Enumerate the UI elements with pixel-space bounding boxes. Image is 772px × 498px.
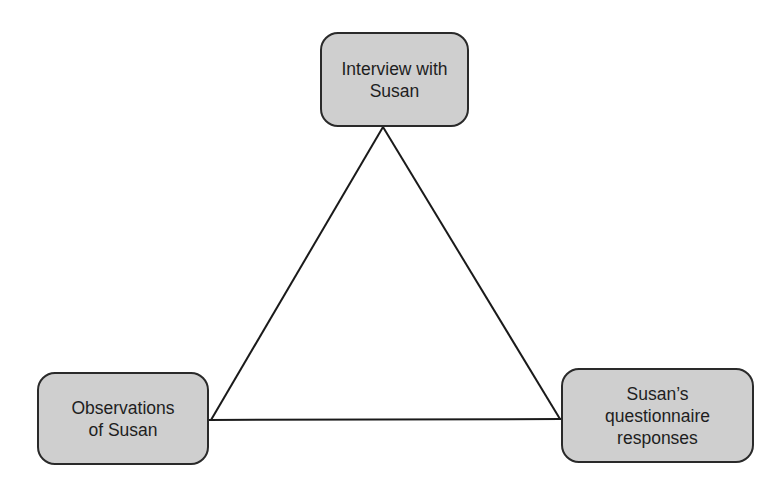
node-label: Interview with Susan: [341, 58, 447, 102]
node-observations-of-susan: Observations of Susan: [37, 372, 209, 465]
node-interview-with-susan: Interview with Susan: [320, 32, 469, 127]
node-label: Observations of Susan: [71, 397, 174, 441]
edge-left-right: [209, 419, 561, 420]
edge-top-left: [211, 127, 383, 420]
node-label: Susan’s questionnaire responses: [605, 383, 710, 449]
edge-top-right: [383, 127, 560, 419]
node-questionnaire-responses: Susan’s questionnaire responses: [561, 368, 754, 463]
